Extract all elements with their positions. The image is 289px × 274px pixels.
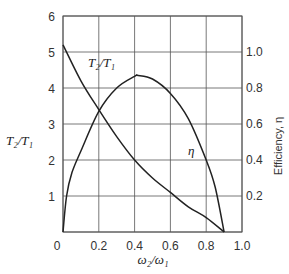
tick-labels: 00.20.40.60.81.01234560.20.40.60.81.0 — [48, 10, 263, 253]
svg-text:5: 5 — [48, 46, 55, 60]
svg-text:0.2: 0.2 — [246, 189, 263, 203]
svg-text:2: 2 — [48, 154, 55, 168]
torque-ratio-curve — [63, 45, 224, 232]
left-axis-label: T₂/T₁ — [6, 133, 33, 148]
efficiency-curve — [63, 75, 224, 232]
svg-text:4: 4 — [48, 82, 55, 96]
svg-text:1: 1 — [48, 190, 55, 204]
x-axis-label: ω₂/ω₁ — [137, 252, 168, 267]
svg-text:6: 6 — [48, 10, 55, 24]
svg-text:0.4: 0.4 — [246, 153, 263, 167]
svg-text:0.2: 0.2 — [90, 239, 107, 253]
chart: 00.20.40.60.81.01234560.20.40.60.81.0 T₂… — [0, 0, 289, 274]
svg-text:0.6: 0.6 — [246, 117, 263, 131]
svg-text:0.6: 0.6 — [162, 239, 179, 253]
grid — [63, 16, 242, 232]
right-axis-label: Efficiency, η — [272, 117, 284, 175]
svg-text:0.4: 0.4 — [126, 239, 143, 253]
svg-text:0.8: 0.8 — [246, 81, 263, 95]
svg-text:0.8: 0.8 — [198, 239, 215, 253]
svg-text:3: 3 — [48, 118, 55, 132]
svg-text:0: 0 — [54, 239, 61, 253]
svg-text:1.0: 1.0 — [246, 45, 263, 59]
svg-text:1.0: 1.0 — [234, 239, 251, 253]
curve-label-torque: T₂/T₁ — [88, 55, 115, 70]
curve-label-efficiency: η — [188, 143, 194, 158]
